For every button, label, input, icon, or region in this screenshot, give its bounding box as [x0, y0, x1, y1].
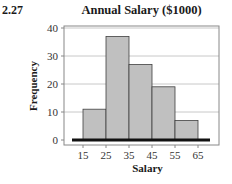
x-tick-label: 45	[147, 149, 159, 161]
y-axis-label: Frequency	[27, 61, 39, 111]
y-tick-label: 10	[47, 106, 59, 118]
x-tick-label: 55	[170, 149, 182, 161]
x-tick-label: 15	[78, 149, 90, 161]
y-tick-label: 30	[47, 50, 59, 62]
x-tick-label: 25	[101, 149, 113, 161]
x-tick-label: 65	[193, 149, 205, 161]
y-tick-label: 20	[47, 78, 59, 90]
histogram-bar	[106, 36, 129, 140]
x-ticks: 152535455565	[78, 145, 205, 161]
histogram-bar	[175, 120, 198, 140]
histogram-bar	[129, 64, 152, 140]
histogram-chart: 010203040 152535455565 Salary Frequency	[0, 0, 232, 184]
histogram-bar	[83, 109, 106, 140]
x-tick-label: 35	[124, 149, 136, 161]
bars	[83, 36, 198, 140]
x-axis-label: Salary	[132, 162, 163, 174]
histogram-bar	[152, 87, 175, 140]
y-tick-label: 40	[47, 22, 59, 34]
y-tick-label: 0	[53, 134, 59, 146]
y-ticks: 010203040	[47, 22, 64, 146]
